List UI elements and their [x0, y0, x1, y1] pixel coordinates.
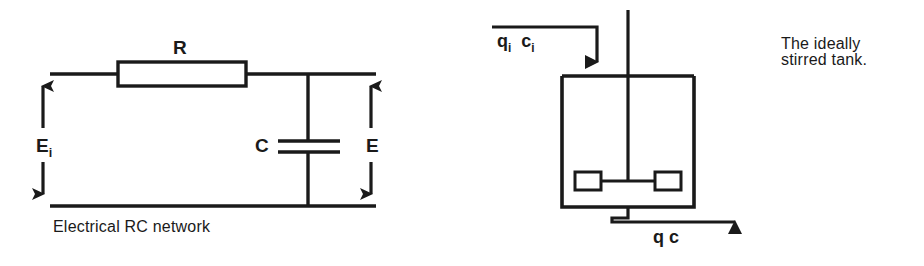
outlet-label: q c: [653, 228, 679, 246]
input-voltage-symbol: E: [36, 135, 49, 156]
figure-canvas: R C E Ei Electrical RC network qi ci q c…: [0, 0, 924, 266]
rc-network-caption: Electrical RC network: [53, 219, 210, 235]
impeller-blade-right: [655, 172, 681, 190]
outlet-pipe: [612, 207, 735, 222]
inlet-flow-symbol: q: [497, 31, 508, 51]
outlet-conc-symbol: c: [669, 227, 679, 247]
inlet-label: qi ci: [497, 32, 535, 54]
output-voltage-label: E: [366, 136, 379, 155]
impeller-blade-left: [575, 172, 601, 190]
resistor-label: R: [173, 38, 187, 57]
input-voltage-subscript: i: [49, 146, 52, 160]
inlet-label-gap: [511, 31, 521, 51]
outlet-flow-symbol: q: [653, 227, 664, 247]
rc-network-group: [43, 62, 376, 206]
capacitor-label: C: [255, 136, 269, 155]
input-voltage-label: Ei: [36, 136, 52, 159]
stirred-tank-caption: The ideallystirred tank.: [781, 36, 867, 68]
stirred-tank-caption-line1: The ideally: [781, 36, 867, 52]
resistor-body: [118, 62, 246, 86]
inlet-conc-symbol: c: [521, 31, 531, 51]
stirred-tank-caption-line2: stirred tank.: [781, 52, 867, 68]
inlet-conc-subscript: i: [531, 41, 534, 55]
